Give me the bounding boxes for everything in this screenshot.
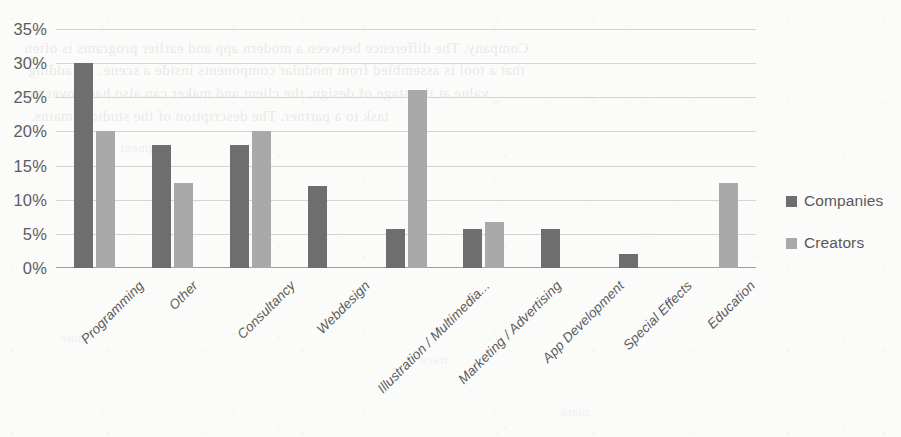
x-axis-tick-label: Other xyxy=(166,278,201,313)
legend-label: Creators xyxy=(804,234,864,252)
legend-item[interactable]: Creators xyxy=(786,234,901,252)
x-label-slot: Special Effects xyxy=(600,268,678,428)
y-axis-tick-label: 35% xyxy=(0,20,47,39)
x-label-slot: Webdesign xyxy=(289,268,367,428)
y-axis-tick-label: 20% xyxy=(0,122,47,141)
bar-creators xyxy=(408,90,427,268)
x-axis-labels: ProgrammingOtherConsultancyWebdesignIllu… xyxy=(56,268,756,428)
bar-group xyxy=(289,29,367,268)
bar-creators xyxy=(174,183,193,268)
x-axis-tick-label: Webdesign xyxy=(314,278,373,337)
x-label-slot: Marketing / Advertising xyxy=(445,268,523,428)
y-axis-tick-label: 5% xyxy=(0,224,47,243)
y-axis-tick-label: 0% xyxy=(0,259,47,278)
legend: CompaniesCreators xyxy=(786,192,901,276)
bar-creators xyxy=(96,131,115,268)
bar-groups xyxy=(56,29,756,268)
legend-item[interactable]: Companies xyxy=(786,192,901,210)
bar-creators xyxy=(719,183,738,268)
bar-companies xyxy=(230,145,249,268)
x-label-slot: Consultancy xyxy=(212,268,290,428)
bar-group xyxy=(56,29,134,268)
bar-creators xyxy=(485,222,504,268)
chart-screenshot: Company. The difference between a modern… xyxy=(0,0,901,437)
bar-companies xyxy=(619,254,638,268)
y-axis-tick-label: 10% xyxy=(0,190,47,209)
legend-swatch-icon xyxy=(786,196,797,207)
x-label-slot: Programming xyxy=(56,268,134,428)
legend-swatch-icon xyxy=(786,238,797,249)
bar-companies xyxy=(308,186,327,268)
y-axis-tick-label: 30% xyxy=(0,54,47,73)
legend-label: Companies xyxy=(804,192,883,210)
bar-companies xyxy=(463,229,482,268)
bar-group xyxy=(212,29,290,268)
bar-group xyxy=(367,29,445,268)
bar-chart: 35%30%25%20%15%10%5%0% ProgrammingOtherC… xyxy=(0,0,901,437)
x-axis-tick-label: Education xyxy=(705,278,759,332)
x-label-slot: Other xyxy=(134,268,212,428)
y-axis: 35%30%25%20%15%10%5%0% xyxy=(0,0,47,437)
plot-area xyxy=(56,29,756,268)
bar-group xyxy=(678,29,756,268)
bar-group xyxy=(600,29,678,268)
y-axis-tick-label: 25% xyxy=(0,88,47,107)
bar-group xyxy=(134,29,212,268)
bar-companies xyxy=(74,63,93,268)
bar-creators xyxy=(252,131,271,268)
x-label-slot: App Development xyxy=(523,268,601,428)
bar-companies xyxy=(152,145,171,268)
bar-group xyxy=(445,29,523,268)
y-axis-tick-label: 15% xyxy=(0,156,47,175)
bar-group xyxy=(523,29,601,268)
bar-companies xyxy=(386,229,405,268)
x-label-slot: Education xyxy=(678,268,756,428)
bar-companies xyxy=(541,229,560,268)
x-label-slot: Illustration / Multimedia... xyxy=(367,268,445,428)
